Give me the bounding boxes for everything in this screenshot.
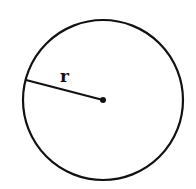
circle-diagram: r [0, 0, 196, 189]
center-point [100, 97, 106, 103]
radius-label: r [60, 66, 70, 86]
